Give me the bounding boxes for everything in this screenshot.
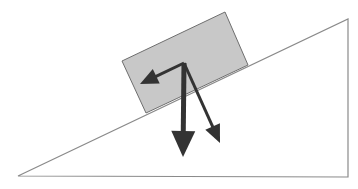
inclined-plane-diagram xyxy=(0,0,358,189)
gravity-shaft xyxy=(183,63,184,133)
arrowhead-icon xyxy=(171,131,195,157)
